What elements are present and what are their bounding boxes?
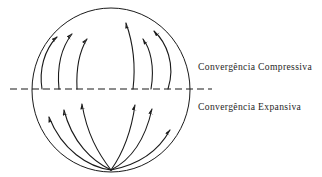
lower-arrow-4	[111, 105, 135, 170]
lower-arrow-3	[82, 104, 111, 170]
label-convergencia-compressiva: Convergência Compressiva	[198, 62, 312, 72]
upper-arrow-group	[41, 23, 171, 89]
upper-arrow-4	[126, 23, 134, 89]
convergence-circle	[32, 8, 190, 172]
upper-arrow-3	[77, 39, 87, 89]
upper-arrow-2	[59, 34, 72, 89]
upper-arrow-5	[143, 39, 152, 89]
convergence-diagram	[0, 0, 322, 177]
label-convergencia-expansiva: Convergência Expansiva	[198, 102, 301, 112]
upper-arrow-1	[41, 37, 57, 89]
upper-arrow-6	[154, 31, 171, 89]
figure-root: Convergência Compressiva Convergência Ex…	[0, 0, 322, 177]
